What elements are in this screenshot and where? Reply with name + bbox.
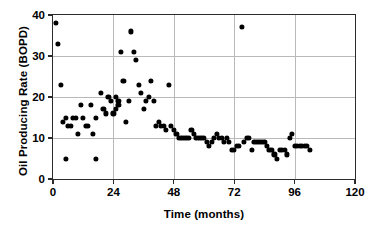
scatter-point bbox=[227, 140, 232, 145]
scatter-point bbox=[164, 127, 169, 132]
x-tick-mark bbox=[173, 179, 174, 184]
scatter-point bbox=[149, 78, 154, 83]
x-tick-mark bbox=[234, 179, 235, 184]
x-tick-mark bbox=[52, 179, 53, 184]
x-tick-label: 72 bbox=[228, 186, 241, 198]
scatter-point bbox=[58, 82, 63, 87]
scatter-point bbox=[307, 148, 312, 153]
x-tick-mark bbox=[294, 179, 295, 184]
scatter-point bbox=[93, 156, 98, 161]
y-tick-label: 30 bbox=[32, 50, 45, 62]
x-tick-label: 24 bbox=[107, 186, 120, 198]
scatter-point bbox=[93, 115, 98, 120]
scatter-point bbox=[78, 103, 83, 108]
scatter-point bbox=[133, 58, 138, 63]
y-tick-mark bbox=[48, 14, 53, 15]
scatter-point bbox=[284, 152, 289, 157]
scatter-point bbox=[63, 115, 68, 120]
chart-figure: Oil Producing Rate (BOPD) 01020304002448… bbox=[0, 0, 380, 230]
x-tick-label: 96 bbox=[288, 186, 301, 198]
scatter-point bbox=[91, 131, 96, 136]
scatter-point bbox=[237, 144, 242, 149]
scatter-point bbox=[123, 119, 128, 124]
scatter-point bbox=[86, 123, 91, 128]
scatter-point bbox=[121, 78, 126, 83]
y-tick-label: 20 bbox=[32, 91, 45, 103]
x-tick-mark bbox=[113, 179, 114, 184]
x-tick-label: 120 bbox=[345, 186, 364, 198]
scatter-point bbox=[53, 21, 58, 26]
scatter-point bbox=[249, 148, 254, 153]
plot-area: 010203040024487296120 bbox=[52, 14, 356, 180]
scatter-point bbox=[63, 156, 68, 161]
scatter-point bbox=[131, 49, 136, 54]
scatter-point bbox=[239, 25, 244, 30]
scatter-point bbox=[274, 156, 279, 161]
scatter-point bbox=[138, 90, 143, 95]
gridline-horizontal bbox=[53, 97, 355, 98]
gridline-vertical bbox=[174, 15, 175, 179]
scatter-point bbox=[98, 90, 103, 95]
scatter-point bbox=[141, 107, 146, 112]
gridline-vertical bbox=[234, 15, 235, 179]
y-tick-mark bbox=[48, 137, 53, 138]
y-tick-mark bbox=[48, 55, 53, 56]
x-axis-title: Time (months) bbox=[52, 208, 356, 220]
scatter-point bbox=[76, 131, 81, 136]
scatter-point bbox=[118, 49, 123, 54]
scatter-point bbox=[68, 123, 73, 128]
y-tick-label: 0 bbox=[39, 173, 45, 185]
y-tick-label: 40 bbox=[32, 9, 45, 21]
gridline-vertical bbox=[295, 15, 296, 179]
scatter-point bbox=[186, 135, 191, 140]
scatter-point bbox=[116, 103, 121, 108]
scatter-point bbox=[88, 103, 93, 108]
scatter-point bbox=[136, 82, 141, 87]
x-tick-mark bbox=[354, 179, 355, 184]
scatter-point bbox=[81, 115, 86, 120]
scatter-point bbox=[103, 111, 108, 116]
scatter-point bbox=[55, 41, 60, 46]
scatter-point bbox=[73, 115, 78, 120]
scatter-point bbox=[166, 82, 171, 87]
x-tick-label: 48 bbox=[167, 186, 180, 198]
y-tick-label: 10 bbox=[32, 132, 45, 144]
scatter-point bbox=[126, 99, 131, 104]
y-tick-mark bbox=[48, 96, 53, 97]
gridline-horizontal bbox=[53, 56, 355, 57]
scatter-point bbox=[128, 29, 133, 34]
scatter-point bbox=[151, 99, 156, 104]
y-axis-title: Oil Producing Rate (BOPD) bbox=[14, 6, 32, 196]
x-tick-label: 0 bbox=[50, 186, 56, 198]
